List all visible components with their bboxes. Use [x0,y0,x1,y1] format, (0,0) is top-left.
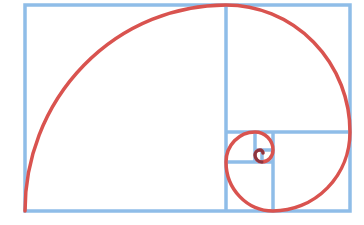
golden-rectangle-grid [25,5,350,211]
golden-spiral-diagram [0,0,364,225]
outer-rectangle [25,5,350,211]
golden-spiral [25,5,350,211]
